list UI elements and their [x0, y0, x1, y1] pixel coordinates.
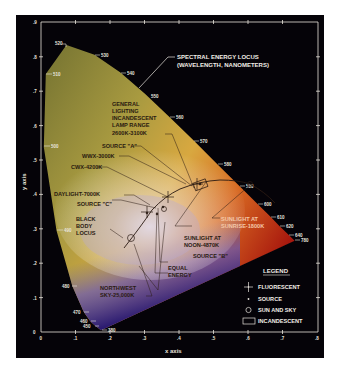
nm-780: 780 — [301, 238, 309, 243]
nm-570: 570 — [200, 139, 208, 144]
y-tick: 0 — [33, 330, 36, 335]
x-tick: .4 — [177, 336, 181, 341]
nm-560: 560 — [176, 115, 184, 120]
equal-energy-marker — [156, 213, 158, 215]
sunrise-label: SUNLIGHT AT — [221, 216, 259, 222]
nm-600: 600 — [264, 202, 272, 207]
x-axis-label: x axis — [165, 348, 182, 354]
incandescent-label: GENERAL — [112, 101, 140, 107]
northwest-sky-label-2: SKY-25,000K — [100, 292, 134, 298]
y-tick: .3 — [33, 227, 37, 232]
legend-title: LEGEND — [263, 268, 289, 274]
nm-580: 580 — [224, 162, 232, 167]
y-tick-labels: 0 .1 .2 .3 .4 .5 .6 .7 .8 .9 — [33, 20, 37, 335]
y-tick: .2 — [33, 261, 37, 266]
y-tick: .6 — [33, 124, 37, 129]
legend-incandescent: INCANDESCENT — [258, 318, 303, 324]
spectral-locus-sublabel: (WAVELENGTH, NANOMETERS) — [177, 62, 269, 68]
equal-energy-label: EQUAL — [168, 265, 188, 271]
nm-380: 380 — [108, 328, 116, 333]
cwx-label: CWX-4200K — [71, 164, 102, 170]
nm-500: 500 — [51, 144, 59, 149]
x-tick: .6 — [246, 336, 250, 341]
y-tick: .5 — [33, 158, 37, 163]
legend-sun-and-sky: SUN AND SKY — [258, 307, 297, 313]
legend: LEGEND FLUORESCENT SOURCE SUN AND SKY IN… — [243, 268, 303, 324]
y-axis-label: y axis — [21, 173, 27, 190]
x-tick-labels: 0 .1 .2 .3 .4 .5 .6 .7 .8 — [40, 336, 320, 341]
nm-610: 610 — [277, 215, 285, 220]
incandescent-label-4: LAMP RANGE — [112, 122, 150, 128]
source-c-marker — [146, 212, 148, 214]
chromaticity-chart: 0 .1 .2 .3 .4 .5 .6 .7 .8 0 .1 .2 .3 .4 … — [0, 0, 344, 372]
legend-fluorescent: FLUORESCENT — [258, 284, 301, 290]
incandescent-label-3: INCANDESCENT — [112, 115, 157, 121]
legend-source: SOURCE — [258, 296, 282, 302]
nm-540: 540 — [127, 71, 135, 76]
nm-450: 450 — [83, 324, 91, 329]
source-c-label: SOURCE "C" — [77, 201, 112, 207]
sun-and-sky-icon — [246, 307, 251, 312]
color-gamut — [40, 40, 300, 335]
incandescent-label-5: 2600K-3100K — [112, 130, 147, 136]
sunlight-noon-label: SUNLIGHT AT — [184, 235, 222, 241]
nm-620: 620 — [286, 224, 294, 229]
y-tick: .4 — [33, 192, 37, 197]
northwest-sky-label: NORTHWEST — [100, 285, 137, 291]
x-tick: .8 — [315, 336, 319, 341]
x-tick: .5 — [212, 336, 216, 341]
y-tick: .8 — [33, 55, 37, 60]
daylight-label: DAYLIGHT-7000K — [54, 191, 100, 197]
x-tick: .3 — [143, 336, 147, 341]
wwx-label: WWX-3000K — [82, 153, 115, 159]
nm-530: 530 — [101, 53, 109, 58]
x-tick: .7 — [281, 336, 285, 341]
equal-energy-label-2: ENERGY — [168, 272, 192, 278]
x-tick: .1 — [74, 336, 78, 341]
x-tick: 0 — [40, 336, 43, 341]
source-b-marker — [162, 206, 164, 208]
sunrise-label-2: SUNRISE-1800K — [221, 223, 264, 229]
black-body-label-3: LOCUS — [76, 230, 96, 236]
black-body-label: BLACK — [76, 216, 96, 222]
sunlight-noon-label-2: NOON-4870K — [184, 242, 219, 248]
nm-490: 490 — [64, 228, 72, 233]
y-tick: .7 — [33, 89, 37, 94]
y-tick: .1 — [33, 296, 37, 301]
source-b-label: SOURCE "B" — [193, 253, 228, 259]
x-tick: .2 — [108, 336, 112, 341]
nm-470: 470 — [73, 310, 81, 315]
y-tick: .9 — [33, 20, 37, 25]
black-body-label-2: BODY — [76, 223, 92, 229]
nm-480: 480 — [62, 284, 70, 289]
nm-510: 510 — [53, 72, 61, 77]
spectral-locus-callout: SPECTRAL ENERGY LOCUS (WAVELENGTH, NANOM… — [139, 54, 269, 88]
nm-520: 520 — [55, 41, 63, 46]
incandescent-icon — [243, 318, 255, 324]
incandescent-label-2: LIGHTING — [112, 108, 139, 114]
source-icon — [248, 298, 250, 300]
spectral-locus-label: SPECTRAL ENERGY LOCUS — [177, 54, 259, 60]
source-a-label: SOURCE "A" — [102, 143, 137, 149]
nm-550: 550 — [151, 94, 159, 99]
